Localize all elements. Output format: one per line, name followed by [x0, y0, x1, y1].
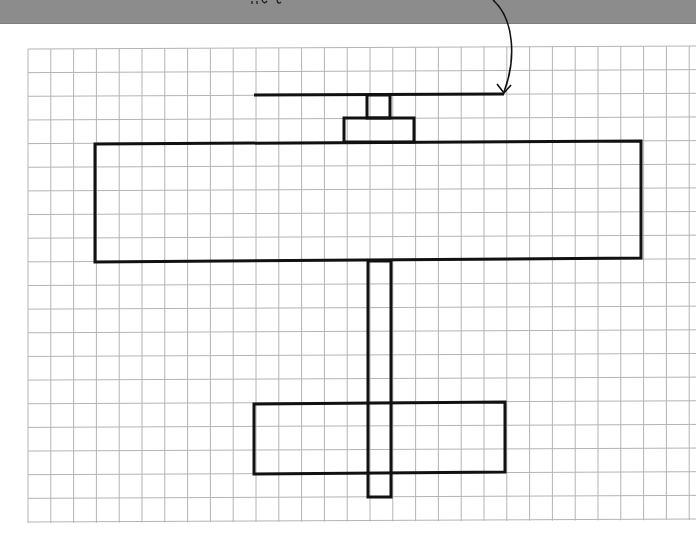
- cropped-caption-fragments: [252, 0, 281, 4]
- main-wing: [95, 141, 641, 262]
- grid-horizontal-line: [28, 212, 696, 215]
- grid-horizontal-line: [28, 70, 696, 73]
- tail-plane: [254, 402, 505, 474]
- grid-horizontal-line: [28, 188, 696, 191]
- grid-drawing-canvas: [0, 0, 696, 555]
- airplane-grid-diagram: [0, 0, 696, 555]
- nose-block: [344, 118, 414, 142]
- airplane-drawing: [95, 94, 641, 497]
- grid-horizontal-line: [28, 164, 696, 167]
- grid-horizontal-line: [28, 495, 696, 498]
- grid-horizontal-line: [28, 353, 696, 356]
- grid-horizontal-line: [28, 46, 696, 49]
- grid-horizontal-line: [28, 519, 696, 522]
- grid-horizontal-line: [28, 330, 696, 333]
- grid-horizontal-line: [28, 283, 696, 286]
- grid-horizontal-line: [28, 377, 696, 380]
- grid-horizontal-line: [28, 306, 696, 309]
- grid-horizontal-line: [28, 235, 696, 238]
- grid-horizontal-line: [28, 424, 696, 427]
- grid-horizontal-line: [28, 448, 696, 451]
